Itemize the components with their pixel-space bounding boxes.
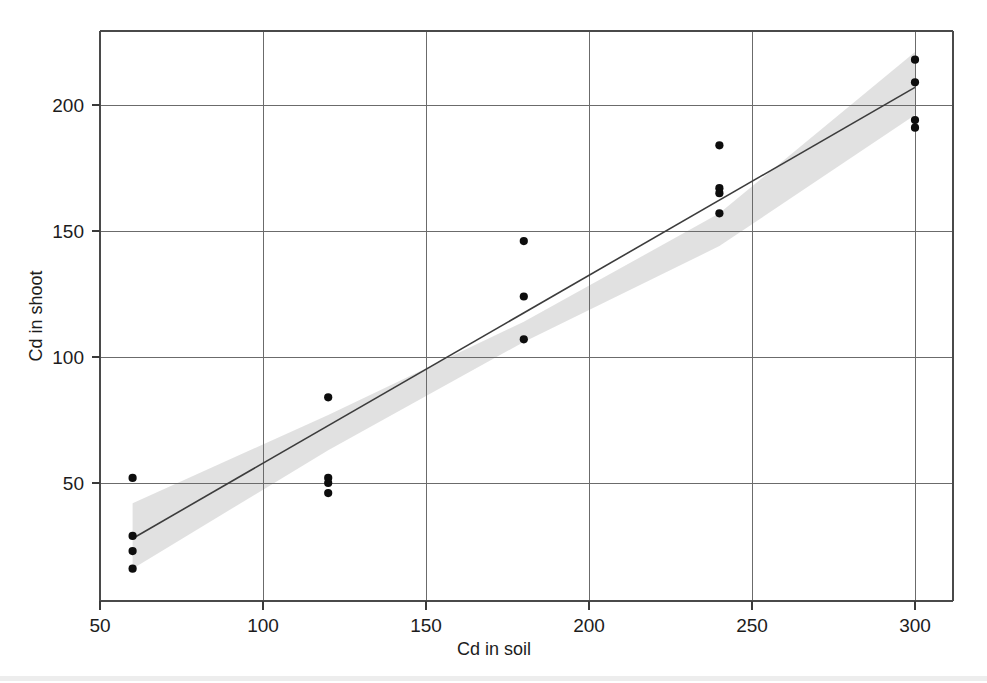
y-tick-label: 100 — [52, 347, 84, 368]
data-point — [324, 489, 332, 497]
plot-frame — [100, 31, 953, 601]
data-point — [520, 335, 528, 343]
vertical-gridlines — [263, 31, 915, 601]
y-axis-title: Cd in shoot — [26, 270, 46, 361]
data-point — [911, 78, 919, 86]
data-point — [911, 124, 919, 132]
y-axis-ticks — [92, 105, 100, 483]
chart-figure: 50100150200 50100150200250300 Cd in soil… — [0, 0, 987, 683]
x-tick-label: 200 — [573, 615, 605, 636]
x-tick-label: 250 — [736, 615, 768, 636]
y-axis-tick-labels: 50100150200 — [52, 95, 84, 494]
data-point — [911, 116, 919, 124]
y-tick-label: 50 — [63, 473, 84, 494]
data-point — [715, 141, 723, 149]
scatter-plot-canvas: 50100150200 50100150200250300 Cd in soil… — [0, 0, 987, 683]
y-tick-label: 150 — [52, 221, 84, 242]
x-tick-label: 50 — [89, 615, 110, 636]
y-tick-label: 200 — [52, 95, 84, 116]
data-point — [520, 237, 528, 245]
x-axis-ticks — [100, 601, 915, 610]
x-tick-label: 150 — [410, 615, 442, 636]
data-point — [129, 532, 137, 540]
data-point — [911, 56, 919, 64]
data-point — [324, 393, 332, 401]
x-tick-label: 100 — [247, 615, 279, 636]
confidence-band — [133, 52, 915, 569]
data-point — [129, 474, 137, 482]
x-tick-label: 300 — [899, 615, 931, 636]
data-point — [324, 479, 332, 487]
data-point — [129, 547, 137, 555]
regression-line — [133, 87, 915, 538]
data-point — [520, 292, 528, 300]
data-point — [715, 209, 723, 217]
data-point — [129, 565, 137, 573]
x-axis-tick-labels: 50100150200250300 — [89, 615, 930, 636]
data-point — [715, 189, 723, 197]
scan-artifact — [0, 676, 987, 681]
x-axis-title: Cd in soil — [457, 639, 531, 659]
